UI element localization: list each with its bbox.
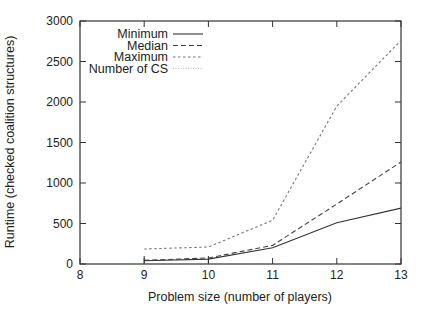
y-tick-label: 3000 xyxy=(46,14,73,28)
y-tick-label: 1500 xyxy=(46,136,73,150)
x-tick-label: 11 xyxy=(266,268,279,282)
x-tick-label: 10 xyxy=(202,268,216,282)
x-tick-label: 13 xyxy=(394,268,408,282)
x-tick-label: 12 xyxy=(330,268,344,282)
y-tick-label: 1000 xyxy=(46,176,73,190)
y-tick-label: 2000 xyxy=(46,95,73,109)
y-tick-label: 500 xyxy=(53,217,73,231)
legend: MinimumMedianMaximumNumber of CS xyxy=(89,27,203,76)
x-tick-label: 8 xyxy=(77,268,84,282)
axis-ticks: 8910111213050010001500200025003000 xyxy=(46,14,408,282)
x-tick-label: 9 xyxy=(141,268,148,282)
line-chart: 8910111213050010001500200025003000 Minim… xyxy=(0,0,426,311)
y-axis-label: Runtime (checked coalition structures) xyxy=(3,36,17,249)
x-axis-label: Problem size (number of players) xyxy=(148,290,332,304)
legend-item: Number of CS xyxy=(89,62,203,76)
data-series xyxy=(144,40,401,263)
series-median xyxy=(144,162,401,260)
legend-label: Number of CS xyxy=(89,62,168,76)
y-tick-label: 2500 xyxy=(46,55,73,69)
series-maximum xyxy=(144,40,401,249)
y-tick-label: 0 xyxy=(66,257,73,271)
series-minimum xyxy=(144,208,401,261)
